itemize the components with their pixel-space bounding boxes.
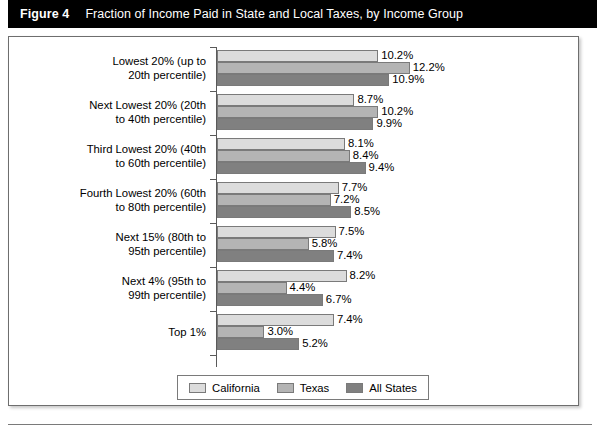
bar-value-label: 3.0% bbox=[264, 325, 293, 338]
bar bbox=[217, 206, 351, 218]
bar-group: Next 15% (80th to95th percentile)7.5%5.8… bbox=[9, 223, 580, 267]
category-label: Next 4% (95th to99th percentile) bbox=[9, 267, 206, 311]
legend-item[interactable]: California bbox=[189, 382, 260, 394]
bar-value-label: 4.4% bbox=[287, 281, 316, 294]
category-label-line: 99th percentile) bbox=[128, 289, 206, 303]
bar bbox=[217, 194, 331, 206]
category-label-line: 20th percentile) bbox=[128, 69, 206, 83]
bar-group: Next Lowest 20% (20thto 40th percentile)… bbox=[9, 91, 580, 135]
bar bbox=[217, 50, 378, 62]
bar-value-label: 9.9% bbox=[373, 117, 402, 130]
bar-group: Third Lowest 20% (40thto 60th percentile… bbox=[9, 135, 580, 179]
legend-label: Texas bbox=[300, 382, 330, 394]
axis-tick bbox=[210, 135, 217, 136]
bar-group: Next 4% (95th to99th percentile)8.2%4.4%… bbox=[9, 267, 580, 311]
bar bbox=[217, 338, 299, 350]
bar-value-label: 10.2% bbox=[378, 49, 413, 62]
bar-group: Top 1%7.4%3.0%5.2% bbox=[9, 311, 580, 355]
bar-value-label: 7.4% bbox=[334, 249, 363, 262]
chart-frame: Lowest 20% (up to20th percentile)10.2%12… bbox=[8, 36, 579, 406]
category-label: Top 1% bbox=[9, 311, 206, 355]
figure-number: Figure 4 bbox=[20, 7, 69, 21]
axis-tick bbox=[210, 223, 217, 224]
category-label-line: Next Lowest 20% (20th bbox=[89, 99, 206, 113]
bottom-divider-rule bbox=[8, 424, 592, 425]
bar bbox=[217, 250, 334, 262]
bar-row-texas: 5.8% bbox=[217, 238, 580, 250]
bar-value-label: 5.2% bbox=[299, 337, 328, 350]
bar-row-all-states: 10.9% bbox=[217, 74, 580, 86]
bar-row-texas: 3.0% bbox=[217, 326, 580, 338]
bar-row-all-states: 8.5% bbox=[217, 206, 580, 218]
bar-value-label: 8.2% bbox=[347, 269, 376, 282]
bar bbox=[217, 138, 345, 150]
bar bbox=[217, 106, 378, 118]
category-label: Fourth Lowest 20% (60thto 80th percentil… bbox=[9, 179, 206, 223]
category-label: Lowest 20% (up to20th percentile) bbox=[9, 47, 206, 91]
bar bbox=[217, 94, 354, 106]
category-label-line: Top 1% bbox=[168, 326, 206, 340]
axis-tick bbox=[210, 267, 217, 268]
bar-set: 7.4%3.0%5.2% bbox=[217, 314, 580, 352]
plot-area: Lowest 20% (up to20th percentile)10.2%12… bbox=[9, 37, 580, 367]
bar-row-california: 10.2% bbox=[217, 50, 580, 62]
bar-group: Lowest 20% (up to20th percentile)10.2%12… bbox=[9, 47, 580, 91]
category-label-line: Next 4% (95th to bbox=[122, 275, 206, 289]
bar-set: 8.2%4.4%6.7% bbox=[217, 270, 580, 308]
bar-row-all-states: 9.4% bbox=[217, 162, 580, 174]
bar-value-label: 7.4% bbox=[334, 313, 363, 326]
bar-row-california: 8.2% bbox=[217, 270, 580, 282]
bar bbox=[217, 74, 389, 86]
legend-swatch-all-states bbox=[346, 383, 363, 393]
bar-row-all-states: 7.4% bbox=[217, 250, 580, 262]
bar-group: Fourth Lowest 20% (60thto 80th percentil… bbox=[9, 179, 580, 223]
bar-row-texas: 4.4% bbox=[217, 282, 580, 294]
bar-row-all-states: 6.7% bbox=[217, 294, 580, 306]
bar-row-all-states: 9.9% bbox=[217, 118, 580, 130]
bar-value-label: 7.5% bbox=[336, 225, 365, 238]
bar bbox=[217, 62, 410, 74]
bar bbox=[217, 238, 309, 250]
bar-value-label: 6.7% bbox=[323, 293, 352, 306]
bar-set: 7.5%5.8%7.4% bbox=[217, 226, 580, 264]
bar bbox=[217, 282, 287, 294]
bar bbox=[217, 182, 339, 194]
bar-row-california: 7.5% bbox=[217, 226, 580, 238]
bar-value-label: 10.9% bbox=[389, 73, 424, 86]
axis-tick-end bbox=[210, 355, 217, 356]
category-label-line: to 80th percentile) bbox=[116, 201, 206, 215]
legend-item[interactable]: Texas bbox=[277, 382, 330, 394]
bar-row-texas: 7.2% bbox=[217, 194, 580, 206]
bar-set: 8.1%8.4%9.4% bbox=[217, 138, 580, 176]
bar-value-label: 9.4% bbox=[366, 161, 395, 174]
bar-set: 8.7%10.2%9.9% bbox=[217, 94, 580, 132]
figure-caption: Fraction of Income Paid in State and Loc… bbox=[85, 7, 463, 21]
bar bbox=[217, 294, 323, 306]
axis-tick bbox=[210, 311, 217, 312]
category-label-line: to 60th percentile) bbox=[116, 157, 206, 171]
category-label-line: Third Lowest 20% (40th bbox=[87, 143, 206, 157]
bar-row-california: 7.7% bbox=[217, 182, 580, 194]
category-label-line: Fourth Lowest 20% (60th bbox=[80, 187, 206, 201]
bar bbox=[217, 326, 264, 338]
axis-tick bbox=[210, 47, 217, 48]
bar bbox=[217, 162, 366, 174]
category-label: Next 15% (80th to95th percentile) bbox=[9, 223, 206, 267]
legend-label: All States bbox=[369, 382, 417, 394]
axis-tick bbox=[210, 91, 217, 92]
bar-row-all-states: 5.2% bbox=[217, 338, 580, 350]
bar bbox=[217, 150, 350, 162]
axis-tick bbox=[210, 179, 217, 180]
bar-value-label: 8.5% bbox=[351, 205, 380, 218]
legend-label: California bbox=[212, 382, 260, 394]
legend-item[interactable]: All States bbox=[346, 382, 417, 394]
bar-row-california: 8.1% bbox=[217, 138, 580, 150]
legend-swatch-california bbox=[189, 383, 206, 393]
category-label-line: to 40th percentile) bbox=[116, 113, 206, 127]
bar-set: 10.2%12.2%10.9% bbox=[217, 50, 580, 88]
figure-title-bar: Figure 4 Fraction of Income Paid in Stat… bbox=[8, 0, 597, 28]
bar-set: 7.7%7.2%8.5% bbox=[217, 182, 580, 220]
category-label-line: 95th percentile) bbox=[128, 245, 206, 259]
category-label-line: Lowest 20% (up to bbox=[112, 55, 206, 69]
bar-row-texas: 8.4% bbox=[217, 150, 580, 162]
